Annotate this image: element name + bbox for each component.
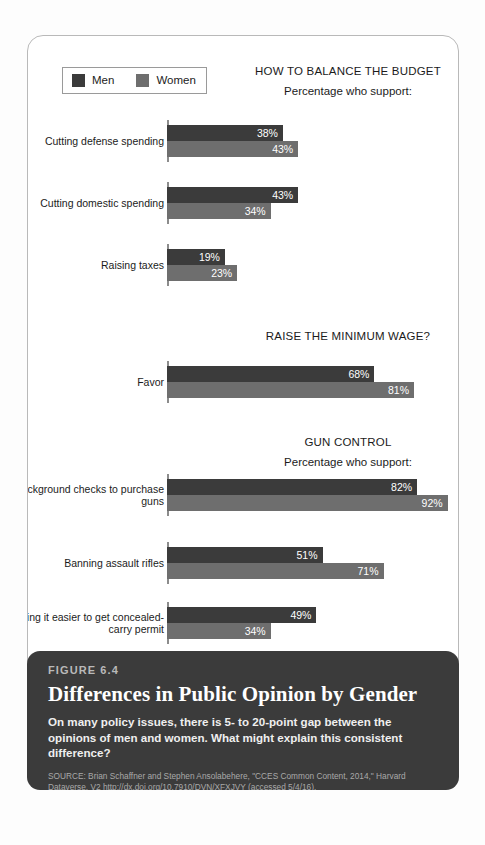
bar-women: 23% [167, 265, 237, 281]
legend-swatch-men [72, 74, 85, 87]
bar-pair: 51%71% [167, 547, 384, 579]
bar-value-label: 71% [358, 566, 384, 577]
bar-pair: 49%34% [167, 607, 316, 639]
category-label: Background checks to purchase guns [27, 483, 164, 508]
bar-value-label: 34% [245, 206, 271, 217]
bar-value-label: 82% [391, 482, 417, 493]
bar-men: 68% [167, 366, 374, 382]
bar-men: 43% [167, 187, 298, 203]
chart-legend: Men Women [62, 67, 207, 94]
bar-men: 51% [167, 547, 323, 563]
section-subtitle-gun-control: Percentage who support: [132, 456, 459, 468]
category-label: Banning assault rifles [27, 557, 164, 570]
bar-men: 49% [167, 607, 316, 623]
bar-women: 34% [167, 623, 271, 639]
legend-entry-men: Men [72, 74, 114, 87]
figure-subtitle: On many policy issues, there is 5- to 20… [48, 714, 438, 761]
bar-value-label: 51% [297, 550, 323, 561]
figure-caption-panel: FIGURE 6.4 Differences in Public Opinion… [27, 651, 459, 790]
legend-entry-women: Women [136, 74, 195, 87]
category-label: Raising taxes [27, 259, 164, 272]
bar-value-label: 23% [211, 268, 237, 279]
bar-value-label: 19% [199, 252, 225, 263]
bar-value-label: 43% [272, 144, 298, 155]
bar-women: 81% [167, 382, 414, 398]
bar-pair: 82%92% [167, 479, 448, 511]
bar-men: 19% [167, 249, 225, 265]
bar-value-label: 34% [245, 626, 271, 637]
category-label: Cutting domestic spending [27, 197, 164, 210]
bar-value-label: 43% [272, 190, 298, 201]
category-label: Cutting defense spending [27, 135, 164, 148]
bar-value-label: 68% [348, 369, 374, 380]
figure-source-citation: SOURCE: Brian Schaffner and Stephen Anso… [48, 771, 438, 790]
bar-pair: 68%81% [167, 366, 414, 398]
bar-pair: 19%23% [167, 249, 237, 281]
bar-men: 82% [167, 479, 417, 495]
legend-swatch-women [136, 74, 149, 87]
category-label: Favor [27, 376, 164, 389]
bar-women: 92% [167, 495, 448, 511]
bar-pair: 38%43% [167, 125, 298, 157]
bar-value-label: 92% [422, 498, 448, 509]
bar-value-label: 49% [290, 610, 316, 621]
figure-title: Differences in Public Opinion by Gender [48, 683, 438, 705]
figure-number-label: FIGURE 6.4 [48, 665, 438, 676]
bar-value-label: 81% [388, 385, 414, 396]
section-heading-minimum-wage: RAISE THE MINIMUM WAGE? [28, 330, 459, 342]
section-title-minimum-wage: RAISE THE MINIMUM WAGE? [132, 330, 459, 342]
bar-men: 38% [167, 125, 283, 141]
section-title-gun-control: GUN CONTROL [132, 436, 459, 448]
bar-pair: 43%34% [167, 187, 298, 219]
bar-women: 71% [167, 563, 384, 579]
legend-label-men: Men [92, 75, 114, 87]
section-heading-gun-control: GUN CONTROL Percentage who support: [28, 436, 459, 468]
legend-label-women: Women [156, 75, 195, 87]
bar-value-label: 38% [257, 128, 283, 139]
bar-women: 43% [167, 141, 298, 157]
category-label: Making it easier to get concealed-carry … [27, 611, 164, 636]
bar-women: 34% [167, 203, 271, 219]
